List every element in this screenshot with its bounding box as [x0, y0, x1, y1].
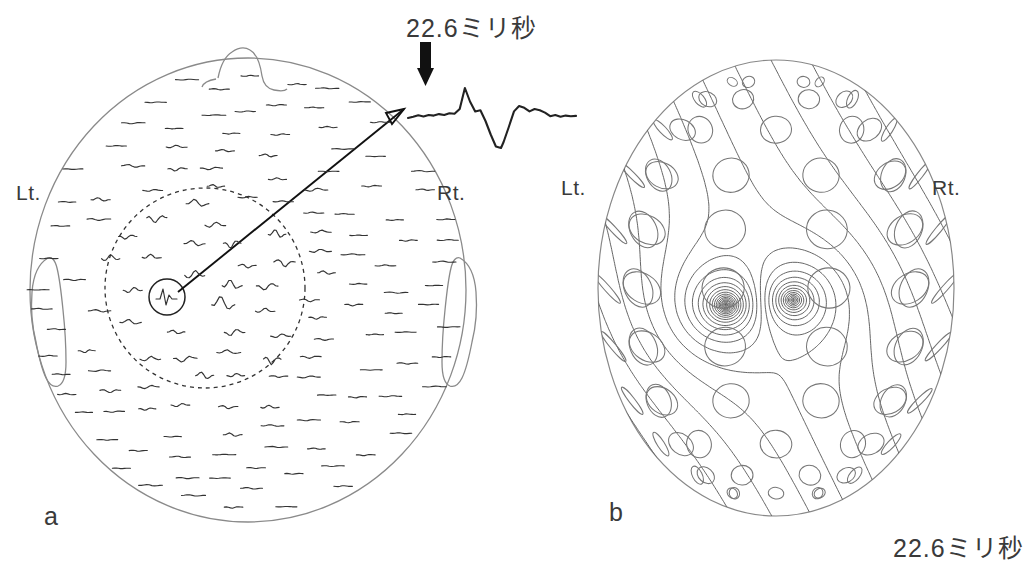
sensor-trace: [247, 468, 266, 469]
right-ear-marker: [442, 258, 477, 387]
sensor-trace: [345, 304, 363, 306]
sensor-trace: [223, 433, 242, 436]
sensor-trace: [122, 123, 145, 124]
sensor-trace: [52, 374, 70, 375]
sensor-trace: [322, 466, 345, 467]
waveform-time-label: 22.6ミリ秒: [406, 8, 537, 44]
highlighted-channel-circle: [149, 279, 185, 315]
left-ear-marker: [32, 258, 67, 387]
sensor-trace: [416, 189, 434, 190]
sensor-coil: [696, 89, 719, 110]
peak-arrow-icon: [417, 42, 434, 86]
sensor-trace: [223, 133, 240, 134]
panel-a-label: a: [44, 502, 58, 531]
sensor-coil: [801, 157, 840, 194]
sensor-trace: [32, 308, 52, 309]
sensor-trace: [433, 261, 456, 262]
sensor-trace: [140, 356, 161, 360]
sensor-trace: [205, 222, 226, 227]
panel-b-time-label: 22.6ミリ秒: [893, 528, 1024, 564]
sensor-trace: [271, 334, 291, 338]
sensor-coil: [804, 208, 849, 251]
sensor-trace: [139, 408, 156, 410]
sensor-trace: [412, 171, 435, 172]
sensor-trace: [297, 420, 320, 421]
panel-b-label: b: [609, 498, 623, 527]
sensor-trace: [288, 84, 306, 85]
sensor-trace: [145, 102, 166, 103]
sensor-coil: [924, 213, 953, 247]
sensor-coil: [796, 76, 810, 89]
sensor-trace: [182, 495, 206, 496]
sensor-trace: [350, 235, 368, 236]
sensor-trace: [87, 219, 111, 221]
sensor-trace: [235, 111, 255, 112]
sensor-trace: [238, 264, 256, 268]
sensor-trace: [386, 220, 403, 221]
sensor-trace: [97, 440, 118, 441]
sensor-trace: [305, 188, 328, 191]
sensor-trace: [174, 356, 198, 362]
sensor-trace: [167, 330, 185, 333]
sensor-coil: [731, 465, 754, 486]
isofield-contour-line: [703, 60, 954, 326]
sensor-trace: [75, 412, 92, 413]
sensor-coil: [730, 87, 756, 112]
sensor-trace: [379, 396, 402, 397]
panel-a-left-label: Lt.: [16, 181, 41, 205]
sensor-trace: [316, 88, 339, 89]
sensor-trace: [268, 230, 286, 237]
sensor-trace: [217, 350, 241, 354]
sensor-coil: [617, 264, 659, 312]
sensor-trace: [186, 199, 209, 206]
isofield-contours: [598, 60, 954, 516]
highlighted-channel-trace: [156, 289, 177, 305]
sensor-trace: [362, 185, 382, 187]
sensor-coil: [923, 330, 954, 362]
sensor-trace: [171, 404, 190, 407]
sensor-trace: [265, 446, 288, 447]
sensor-trace: [138, 385, 159, 388]
sensor-coil: [684, 112, 717, 147]
sensor-trace: [256, 284, 278, 290]
sensor-trace: [123, 288, 142, 293]
sensor-coil: [726, 76, 739, 88]
sensor-trace: [259, 154, 277, 157]
sensor-trace: [139, 485, 163, 486]
sensor-trace: [166, 145, 187, 147]
sensor-trace: [349, 397, 367, 398]
sensor-trace: [142, 254, 161, 258]
sensor-trace: [360, 370, 382, 371]
sensor-coil: [805, 265, 853, 311]
sensor-trace: [58, 202, 75, 203]
sensor-trace: [314, 339, 333, 341]
panel-a-right-label: Rt.: [437, 181, 465, 205]
isofield-contour-line: [692, 60, 954, 492]
sensor-trace: [147, 216, 167, 223]
sensor-trace: [437, 219, 455, 220]
sensor-coil: [869, 155, 911, 195]
sensor-coil: [759, 115, 792, 145]
sensor-trace: [212, 297, 235, 309]
sensor-coil: [759, 429, 793, 459]
sensor-trace: [39, 355, 58, 356]
sensor-trace: [100, 390, 121, 393]
sensor-coil: [623, 206, 664, 252]
sensor-coil: [591, 271, 622, 305]
nose-marker-outline: [202, 79, 216, 87]
sensor-trace: [395, 332, 416, 333]
sensor-trace: [241, 488, 263, 490]
panel-b-drawing: [540, 0, 1012, 556]
sensor-trace: [51, 226, 70, 227]
sensor-coil: [767, 486, 784, 500]
sensor-trace: [202, 115, 226, 116]
sensor-trace: [170, 456, 191, 457]
sensor-trace: [129, 450, 147, 451]
sensor-trace: [319, 126, 337, 127]
sensor-trace: [334, 486, 353, 487]
panel-b-left-label: Lt.: [561, 176, 586, 200]
sensor-trace: [274, 260, 296, 267]
sensor-trace: [350, 283, 367, 284]
sensor-trace: [390, 433, 412, 434]
